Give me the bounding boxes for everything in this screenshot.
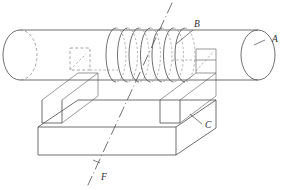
coil-turn-back-7 <box>185 28 195 82</box>
figure-container: A B C F <box>0 0 290 190</box>
support-block-right-edge-b <box>180 73 216 100</box>
base-plate-front-face <box>38 127 176 155</box>
cylinder-shaft <box>3 30 275 80</box>
support-block-left-front <box>42 100 62 123</box>
coil-turn-front-5 <box>152 28 162 82</box>
leader-line-a <box>254 40 265 45</box>
support-block-right <box>160 49 216 123</box>
technical-diagram: A B C F <box>0 0 290 190</box>
coil-turn-front-6 <box>164 28 174 82</box>
coil-turn-front-2 <box>118 28 128 82</box>
helical-coil <box>106 28 195 82</box>
coil-turn-front-1 <box>106 28 116 82</box>
support-block-right-hidden-diagonal <box>196 51 214 71</box>
coil-turn-front-3 <box>129 28 139 82</box>
support-block-right-front <box>160 100 180 123</box>
leader-lines <box>176 30 265 124</box>
label-f: F <box>100 172 107 182</box>
leader-line-c <box>190 114 202 124</box>
label-b: B <box>194 19 200 29</box>
label-a: A <box>271 34 278 44</box>
cylinder-left-end-hidden <box>20 30 37 80</box>
support-block-left-edge-a <box>42 73 78 100</box>
cylinder-left-end-front <box>3 30 20 80</box>
support-block-left-edge-b <box>62 73 98 100</box>
support-block-left-hidden-diagonal <box>70 54 86 70</box>
label-c: C <box>205 120 212 130</box>
base-plate-top-face <box>38 100 216 127</box>
coil-turn-front-7 <box>175 28 185 82</box>
support-block-left <box>42 48 118 123</box>
base-plate <box>38 100 216 155</box>
support-block-right-top-face <box>196 49 216 73</box>
cylinder-right-end-face <box>241 30 275 80</box>
coil-turn-front-4 <box>141 28 151 82</box>
